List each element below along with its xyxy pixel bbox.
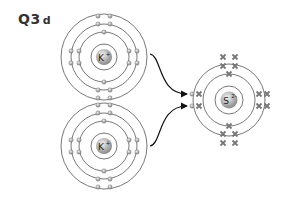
svg-text:+: +: [105, 139, 110, 146]
svg-text:+: +: [105, 50, 110, 57]
electron-transfer-arrow-2: [150, 106, 187, 146]
ionic-bonding-diagram: K + K +: [0, 0, 283, 198]
sulfide-nucleus: S 2-: [221, 92, 238, 109]
potassium-2-nucleus: K +: [96, 138, 112, 154]
electron-transfer-arrow-1: [150, 54, 187, 94]
svg-text:S: S: [223, 96, 229, 106]
sulfide-gained-electrons: [190, 92, 194, 108]
svg-text:2-: 2-: [231, 93, 236, 99]
potassium-1-nucleus: K +: [96, 49, 112, 65]
